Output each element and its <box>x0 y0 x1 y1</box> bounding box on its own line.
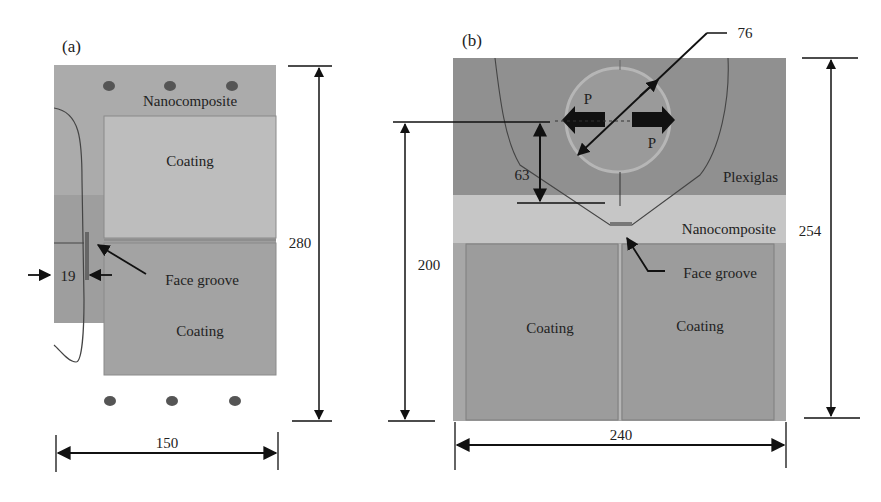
dim-254-label: 254 <box>799 223 822 239</box>
bolt-hole-icon <box>229 396 241 406</box>
face-groove-label-a: Face groove <box>165 272 239 288</box>
coating-region-top-a <box>104 116 276 238</box>
nanocomposite-label-a: Nanocomposite <box>143 93 237 109</box>
dim-76-label: 76 <box>738 25 754 41</box>
panel-a: (a) Nanocomposite Coating Face groove Co… <box>28 37 332 472</box>
bolt-hole-icon <box>166 396 178 406</box>
coating-label-bottom-a: Coating <box>176 323 224 339</box>
bolt-hole-icon <box>164 81 176 91</box>
panel-b: (b) P P 76 63 200 <box>388 25 860 470</box>
load-label-right: P <box>648 135 656 151</box>
coating-label-top-a: Coating <box>166 153 214 169</box>
coating-region-bottom-a <box>104 243 276 375</box>
figure-canvas: (a) Nanocomposite Coating Face groove Co… <box>0 0 881 502</box>
dim-63-label: 63 <box>515 167 530 183</box>
bolt-hole-icon <box>104 396 116 406</box>
coating-label-left-b: Coating <box>526 320 574 336</box>
face-groove-label-b: Face groove <box>683 265 757 281</box>
dim-200-label: 200 <box>418 257 441 273</box>
dim-240-label: 240 <box>610 427 633 443</box>
panel-a-label: (a) <box>62 37 81 56</box>
bolt-hole-icon <box>226 81 238 91</box>
panel-b-label: (b) <box>462 31 482 50</box>
coating-label-right-b: Coating <box>676 318 724 334</box>
dim-280-label: 280 <box>289 235 312 251</box>
face-groove-b <box>610 222 632 226</box>
nanocomposite-label-b: Nanocomposite <box>682 221 776 237</box>
plexiglas-label: Plexiglas <box>723 169 778 185</box>
dim-19-label: 19 <box>61 268 76 284</box>
bolt-hole-icon <box>103 81 115 91</box>
dim-150-label: 150 <box>156 435 179 451</box>
face-groove-a <box>85 232 89 280</box>
load-label-left: P <box>584 91 592 107</box>
